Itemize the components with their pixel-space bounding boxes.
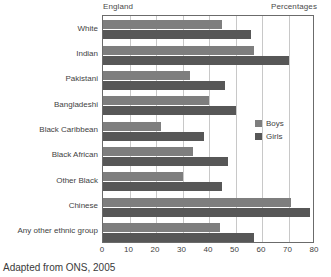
bar-chart-figure: England Percentages WhiteIndianPakistani…	[0, 0, 331, 277]
bar-boys	[103, 172, 183, 181]
bar-girls	[103, 132, 204, 141]
legend-label: Boys	[266, 119, 284, 128]
bar-girls	[103, 81, 225, 90]
bar-boys	[103, 147, 193, 156]
bar-group	[103, 46, 313, 65]
bar-boys	[103, 96, 209, 105]
bar-girls	[103, 106, 236, 115]
bar-girls	[103, 157, 228, 166]
category-label: Other Black	[0, 176, 98, 185]
legend-swatch-icon	[255, 133, 262, 140]
bar-group	[103, 147, 313, 166]
legend-item: Girls	[255, 131, 301, 142]
category-label: Indian	[0, 49, 98, 58]
legend-swatch-icon	[255, 120, 262, 127]
value-axis-labels: 01020304050607080	[102, 245, 314, 257]
x-tick-label: 20	[151, 245, 160, 254]
bar-boys	[103, 198, 291, 207]
category-label: White	[0, 24, 98, 33]
legend-item: Boys	[255, 118, 301, 129]
bar-girls	[103, 30, 251, 39]
category-label: Chinese	[0, 201, 98, 210]
bar-group	[103, 223, 313, 242]
bar-girls	[103, 56, 289, 65]
x-tick-label: 40	[204, 245, 213, 254]
category-label: Any other ethnic group	[0, 226, 98, 235]
category-label: Black African	[0, 150, 98, 159]
legend-label: Girls	[266, 132, 282, 141]
bar-boys	[103, 223, 220, 232]
category-label: Black Caribbean	[0, 125, 98, 134]
region-label: England	[103, 2, 133, 11]
bar-group	[103, 198, 313, 217]
chart-legend: BoysGirls	[255, 118, 301, 144]
bar-group	[103, 71, 313, 90]
x-tick-label: 0	[100, 245, 104, 254]
x-tick-label: 50	[230, 245, 239, 254]
bar-group	[103, 20, 313, 39]
bar-girls	[103, 208, 310, 217]
bar-boys	[103, 71, 190, 80]
units-label: Percentages	[271, 2, 317, 11]
x-tick-label: 80	[310, 245, 319, 254]
category-label: Bangladeshi	[0, 100, 98, 109]
x-tick-label: 60	[257, 245, 266, 254]
bar-group	[103, 96, 313, 115]
x-tick-label: 70	[283, 245, 292, 254]
x-tick-label: 10	[124, 245, 133, 254]
source-note: Adapted from ONS, 2005	[3, 262, 115, 273]
bar-girls	[103, 233, 254, 242]
bar-boys	[103, 122, 161, 131]
bar-group	[103, 172, 313, 191]
bar-boys	[103, 20, 222, 29]
bar-girls	[103, 182, 222, 191]
category-label: Pakistani	[0, 74, 98, 83]
bar-boys	[103, 46, 254, 55]
x-tick-label: 30	[177, 245, 186, 254]
category-axis-labels: WhiteIndianPakistaniBangladeshiBlack Car…	[0, 15, 98, 243]
